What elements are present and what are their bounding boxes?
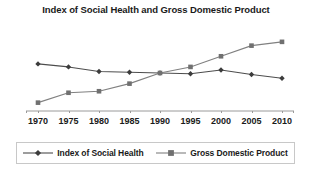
x-tick-label-2005: 2005 [235, 116, 269, 126]
x-tick-label-2010: 2010 [265, 116, 299, 126]
x-tick-label-1975: 1975 [52, 116, 86, 126]
legend-label-gross-domestic-product: Gross Domestic Product [190, 148, 287, 158]
square-marker-icon [156, 148, 186, 158]
x-tick-label-1980: 1980 [82, 116, 116, 126]
x-tick-label-1995: 1995 [174, 116, 208, 126]
diamond-marker-icon [23, 148, 53, 158]
x-tick-label-1985: 1985 [113, 116, 147, 126]
chart-title: Index of Social Health and Gross Domesti… [34, 4, 278, 17]
legend-item-gross-domestic-product: Gross Domestic Product [156, 148, 287, 158]
x-tick-label-1970: 1970 [21, 116, 55, 126]
plot-area [26, 31, 294, 113]
chart-container: Index of Social Health and Gross Domesti… [0, 0, 311, 177]
legend-item-index-of-social-health: Index of Social Health [23, 148, 143, 158]
plot-svg [26, 31, 294, 113]
legend-label-index-of-social-health: Index of Social Health [57, 148, 143, 158]
x-axis-tick-labels: 197019751980198519901995200020052010 [26, 116, 294, 130]
x-tick-label-2000: 2000 [204, 116, 238, 126]
chart-legend: Index of Social Health Gross Domestic Pr… [16, 142, 295, 164]
x-tick-label-1990: 1990 [143, 116, 177, 126]
